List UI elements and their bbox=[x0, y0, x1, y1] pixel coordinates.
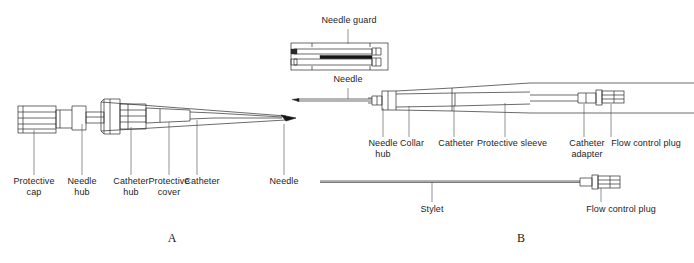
label-catheter-a: Catheter bbox=[173, 176, 231, 187]
catheter-sleeve-shape bbox=[396, 83, 694, 113]
label-flow-control-plug-stylet: Flow control plug bbox=[576, 204, 666, 215]
label-protective-sleeve: Protective sleeve bbox=[462, 138, 562, 149]
panel-label-b: B bbox=[507, 231, 535, 246]
label-needle-guard: Needle guard bbox=[310, 15, 388, 26]
panel-label-a: A bbox=[158, 231, 186, 246]
panel-b-stylet-drawing bbox=[320, 175, 620, 189]
label-needle-hub-a: Needle hub bbox=[56, 176, 108, 197]
panel-b-needle-guard-drawing bbox=[291, 43, 388, 70]
label-protective-cap: Protective cap bbox=[4, 176, 64, 197]
label-needle-a: Needle bbox=[259, 176, 309, 187]
catheter-tube-shape bbox=[530, 95, 578, 101]
panel-a-drawing bbox=[18, 99, 296, 134]
label-needle-b: Needle bbox=[323, 74, 373, 85]
label-flow-control-plug: Flow control plug bbox=[601, 138, 691, 149]
needle-hub-b-shape bbox=[368, 96, 382, 105]
catheter-adapter-shape bbox=[578, 90, 624, 105]
protective-cap-shape bbox=[18, 106, 56, 133]
panel-b-assembly-drawing bbox=[292, 83, 694, 113]
needle-hub-shape bbox=[56, 106, 104, 130]
collar-shape bbox=[382, 91, 396, 110]
catheter-shape bbox=[101, 102, 286, 131]
figure-canvas: Protective cap Needle hub Catheter hub P… bbox=[0, 0, 694, 263]
label-stylet: Stylet bbox=[409, 204, 455, 215]
protective-cover-shape bbox=[146, 108, 214, 123]
diagram-artwork bbox=[0, 0, 694, 263]
